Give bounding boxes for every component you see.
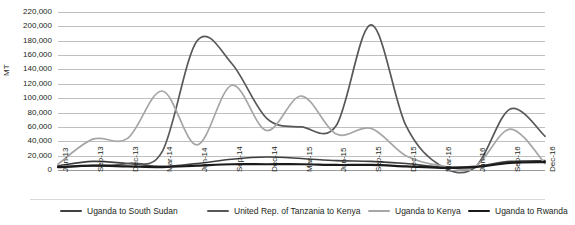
y-tick-label: 0 bbox=[48, 166, 52, 174]
y-tick-label: 180,000 bbox=[23, 37, 52, 45]
x-tick-label: Jun-13 bbox=[61, 148, 70, 172]
y-tick-label: 40,000 bbox=[28, 137, 52, 145]
legend-label: United Rep. of Tanzania to Kenya bbox=[234, 206, 360, 216]
line-chart: MT 220,000200,000180,000160,000140,00012… bbox=[0, 0, 575, 225]
y-axis-tick-labels: 220,000200,000180,000160,000140,000120,0… bbox=[0, 12, 54, 170]
x-tick-label: Dec-16 bbox=[548, 146, 557, 172]
legend-label: Uganda to Kenya bbox=[395, 206, 461, 216]
legend-label: Uganda to South Sudan bbox=[87, 206, 178, 216]
legend-swatch bbox=[207, 210, 229, 212]
legend-label: Uganda to Rwanda bbox=[495, 206, 568, 216]
y-tick-label: 140,000 bbox=[23, 65, 52, 73]
legend-swatch bbox=[60, 210, 82, 212]
x-axis-tick-labels: Jun-13Sep-13Dec-13Mar-14Jun-14Sep-14Dec-… bbox=[58, 172, 545, 206]
x-tick-label: Mar-14 bbox=[165, 147, 174, 172]
y-tick-label: 220,000 bbox=[23, 8, 52, 16]
y-tick-label: 200,000 bbox=[23, 22, 52, 30]
x-tick-label: Mar-16 bbox=[444, 147, 453, 172]
legend-item[interactable]: United Rep. of Tanzania to Kenya bbox=[207, 206, 360, 216]
y-tick-label: 60,000 bbox=[28, 123, 52, 131]
x-tick-label: Sep-14 bbox=[235, 146, 244, 172]
y-tick-label: 120,000 bbox=[23, 80, 52, 88]
x-tick-label: Jun-14 bbox=[200, 148, 209, 172]
y-tick-label: 160,000 bbox=[23, 51, 52, 59]
x-tick-label: Dec-14 bbox=[270, 146, 279, 172]
x-tick-label: Jun-16 bbox=[478, 148, 487, 172]
x-tick-label: Jun-15 bbox=[339, 148, 348, 172]
legend-swatch bbox=[468, 210, 490, 212]
legend-item[interactable]: Uganda to South Sudan bbox=[60, 206, 178, 216]
x-tick-label: Mar-15 bbox=[305, 147, 314, 172]
x-tick-label: Dec-13 bbox=[131, 146, 140, 172]
x-tick-label: Sep-13 bbox=[96, 146, 105, 172]
y-tick-label: 100,000 bbox=[23, 94, 52, 102]
legend-item[interactable]: Uganda to Kenya bbox=[368, 206, 461, 216]
legend-divider bbox=[30, 199, 545, 200]
x-tick-label: Sep-16 bbox=[513, 146, 522, 172]
legend-swatch bbox=[368, 210, 390, 212]
x-tick-label: Sep-15 bbox=[374, 146, 383, 172]
chart-legend: Uganda to South SudanUnited Rep. of Tanz… bbox=[0, 203, 575, 223]
x-tick-label: Dec-15 bbox=[409, 146, 418, 172]
legend-item[interactable]: Uganda to Rwanda bbox=[468, 206, 568, 216]
y-tick-label: 20,000 bbox=[28, 152, 52, 160]
y-tick-label: 80,000 bbox=[28, 109, 52, 117]
